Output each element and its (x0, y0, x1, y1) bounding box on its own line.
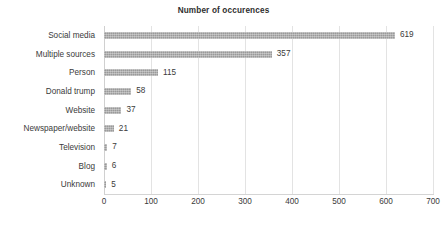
y-axis-label: Donald trump (0, 82, 99, 101)
bar (104, 32, 395, 39)
x-tick-label: 700 (426, 197, 440, 206)
x-tick-label: 200 (191, 197, 205, 206)
x-tick-label: 600 (379, 197, 393, 206)
bar-value-label: 6 (112, 162, 117, 170)
y-axis-label: Blog (0, 157, 99, 176)
bar (104, 69, 158, 76)
bar-value-label: 58 (136, 87, 145, 95)
bar (104, 181, 106, 188)
bar (104, 107, 121, 114)
bar-value-label: 7 (112, 143, 117, 151)
bar-row: 21 (104, 119, 433, 138)
bar (104, 51, 272, 58)
bar-row: 37 (104, 101, 433, 120)
gridline-700 (433, 26, 434, 194)
y-axis-label: Television (0, 138, 99, 157)
bar-row: 357 (104, 45, 433, 64)
bar-value-label: 5 (111, 181, 116, 189)
chart-title: Number of occurences (0, 6, 447, 15)
y-axis-label: Website (0, 101, 99, 120)
plot-area: 619357115583721765 (104, 26, 433, 194)
y-axis-label: Newspaper/website (0, 119, 99, 138)
y-axis-label: Social media (0, 26, 99, 45)
bar (104, 144, 107, 151)
bar-value-label: 37 (126, 106, 135, 114)
x-tick-label: 400 (285, 197, 299, 206)
bar-value-label: 21 (119, 125, 128, 133)
bar-row: 115 (104, 63, 433, 82)
bar (104, 125, 114, 132)
y-axis-label: Multiple sources (0, 45, 99, 64)
bar-row: 5 (104, 175, 433, 194)
bar-rows: 619357115583721765 (104, 26, 433, 194)
y-axis-label: Unknown (0, 175, 99, 194)
bar-value-label: 115 (163, 69, 176, 77)
bar-value-label: 357 (277, 50, 291, 58)
bar-row: 619 (104, 26, 433, 45)
bar-row: 58 (104, 82, 433, 101)
y-axis-label: Person (0, 63, 99, 82)
bar-row: 6 (104, 157, 433, 176)
bar (104, 88, 131, 95)
bar (104, 163, 107, 170)
y-axis-category-labels: Social mediaMultiple sourcesPersonDonald… (0, 26, 99, 194)
bar-row: 7 (104, 138, 433, 157)
x-tick-label: 500 (332, 197, 346, 206)
bar-value-label: 619 (400, 31, 414, 39)
x-tick-label: 0 (102, 197, 107, 206)
x-axis-line (104, 194, 434, 195)
x-tick-label: 300 (238, 197, 252, 206)
x-axis-tick-labels: 0100200300400500600700 (104, 197, 433, 213)
x-tick-label: 100 (144, 197, 158, 206)
bar-chart: Number of occurences Social mediaMultipl… (0, 0, 447, 227)
